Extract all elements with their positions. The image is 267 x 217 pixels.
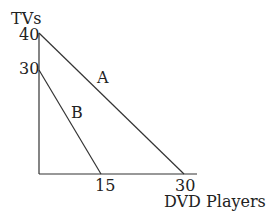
x-axis-label: DVD Players [164, 194, 266, 210]
line-b [39, 70, 101, 174]
line-a-label: A [97, 70, 109, 86]
y-tick-40: 40 [19, 27, 39, 43]
y-tick-30: 30 [19, 61, 39, 77]
ppf-diagram [0, 0, 267, 217]
line-b-label: B [71, 105, 83, 121]
line-a [39, 33, 184, 174]
x-tick-15: 15 [95, 178, 115, 194]
